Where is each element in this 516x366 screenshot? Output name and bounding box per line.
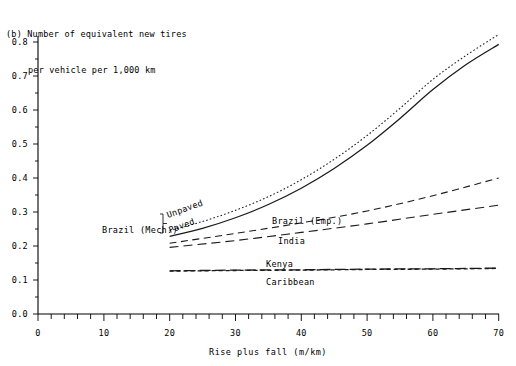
series-annotations: Brazil (Mech.) Unpaved Paved Brazil (Emp… [102, 198, 342, 287]
y-tick-label: 0.2 [12, 241, 28, 251]
x-axis-ticks [38, 314, 499, 321]
x-axis-title: Rise plus fall (m/km) [209, 347, 327, 357]
series-curves [170, 35, 499, 272]
y-tick-label: 0.7 [12, 71, 28, 81]
axes [38, 36, 499, 314]
y-tick-label: 0.8 [12, 37, 28, 47]
series-line-paved [170, 44, 499, 236]
x-axis-labels: 0 10 20 30 40 50 60 70 [35, 328, 504, 338]
y-tick-label: 0.5 [12, 139, 28, 149]
annotation-paved: Paved [167, 216, 196, 235]
annotation-brazil-mech: Brazil (Mech.) [102, 225, 178, 235]
x-tick-label: 20 [164, 328, 175, 338]
chart-figure: (b) Number of equivalent new tires per v… [0, 0, 516, 366]
y-axis-ticks [33, 42, 38, 314]
series-line-unpaved [170, 35, 499, 231]
annotation-unpaved: Unpaved [165, 198, 204, 220]
annotation-kenya: Kenya [266, 259, 293, 269]
series-line-brazil-emp [170, 178, 499, 243]
x-tick-label: 0 [35, 328, 40, 338]
y-axis-labels: 0.8 0.7 0.6 0.5 0.4 0.3 0.2 0.1 0.0 [12, 37, 28, 319]
x-tick-label: 70 [493, 328, 504, 338]
x-tick-label: 60 [427, 328, 438, 338]
annotation-india: India [278, 236, 305, 246]
y-tick-label: 0.3 [12, 207, 28, 217]
x-tick-label: 40 [296, 328, 307, 338]
y-tick-label: 0.4 [12, 173, 28, 183]
x-tick-label: 10 [98, 328, 109, 338]
x-tick-label: 50 [362, 328, 373, 338]
plot-canvas: 0.8 0.7 0.6 0.5 0.4 0.3 0.2 0.1 0.0 [0, 0, 516, 366]
annotation-caribbean: Caribbean [266, 277, 315, 287]
y-tick-label: 0.1 [12, 275, 28, 285]
x-tick-label: 30 [230, 328, 241, 338]
annotation-brazil-emp: Brazil (Emp.) [272, 216, 342, 226]
y-tick-label: 0.0 [12, 309, 28, 319]
series-line-india [170, 205, 499, 247]
y-tick-label: 0.6 [12, 105, 28, 115]
